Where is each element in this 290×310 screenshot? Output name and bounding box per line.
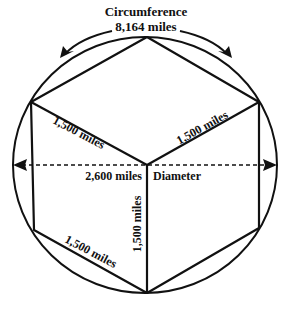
circle-hexagon-diagram: Circumference 8,164 miles 1,500 miles 1,…	[0, 0, 290, 310]
diameter-label: Diameter	[153, 169, 202, 183]
circumference-title: Circumference	[105, 4, 188, 19]
diameter-arrow-right-icon	[263, 159, 277, 171]
diameter-arrow-left-icon	[13, 159, 27, 171]
side-label-bottom-spoke: 1,500 miles	[130, 195, 144, 252]
side-label-upper-left: 1,500 miles	[51, 113, 108, 152]
diameter-value: 2,600 miles	[85, 169, 142, 183]
side-label-upper-right: 1,500 miles	[174, 107, 231, 147]
circumference-value: 8,164 miles	[115, 19, 176, 34]
